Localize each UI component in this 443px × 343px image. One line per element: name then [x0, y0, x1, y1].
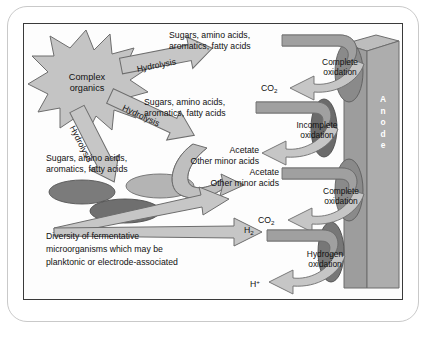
substrate-label-3: Sugars, amino acids, aromatics, fatty ac… [46, 153, 128, 174]
co2-subscript-2: 2 [271, 219, 274, 226]
oxidation-label-4: Hydrogen oxidation [292, 250, 358, 270]
h2-label: H2 [244, 225, 254, 239]
figure-root: Complex organics Hydrolysis Hydrolysis H… [0, 0, 443, 343]
complex-organics-label: Complex organics [51, 72, 123, 93]
hplus-label: H+ [250, 277, 260, 290]
hplus-superscript: + [256, 278, 260, 285]
oxidation-label-2: Incomplete oxidation [282, 121, 352, 141]
product-label-1: Acetate Other minor acids [159, 145, 259, 166]
anode-side-face [367, 41, 399, 288]
h2-subscript: 2 [250, 229, 253, 236]
oxidation-label-1: Complete oxidation [309, 58, 371, 78]
product-label-2: Acetate Other minor acids [174, 167, 279, 188]
substrate-label-1: Sugars, amino acids, aromatics, fatty ac… [169, 30, 251, 51]
co2-label-2: CO2 [258, 215, 274, 229]
oxidation-label-3: Complete oxidation [310, 187, 372, 207]
diagram-panel: Complex organics Hydrolysis Hydrolysis H… [23, 23, 403, 300]
co2-label-1: CO2 [261, 83, 277, 97]
left-cell-1 [49, 180, 115, 204]
co2-subscript-1: 2 [274, 87, 277, 94]
fermentative-caption: Diversity of fermentative microorganisms… [46, 230, 178, 269]
anode-label: A n o d e [373, 94, 393, 152]
substrate-label-2: Sugars, amino acids, aromatics, fatty ac… [144, 97, 226, 118]
